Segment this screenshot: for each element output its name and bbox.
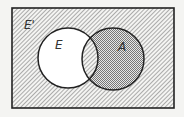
set-e-label: E	[55, 38, 63, 52]
universe-label: E'	[24, 18, 35, 32]
set-a-label: A	[117, 40, 126, 54]
venn-diagram: E' E A	[0, 0, 184, 117]
